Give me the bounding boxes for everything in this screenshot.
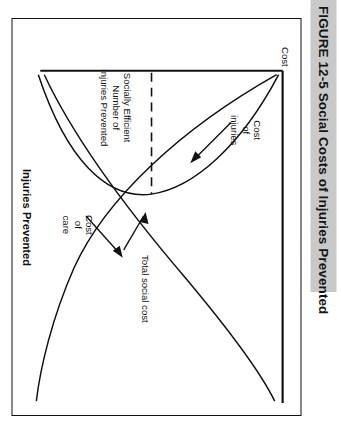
annotation-total-social-cost: Total social cost xyxy=(139,255,150,323)
annotation-socially-efficient-line1: Socially Efficient xyxy=(121,69,132,146)
x-axis-label: Injuries Prevented xyxy=(19,169,32,266)
annotation-cost-of-injuries: Cost of injuries xyxy=(228,115,262,145)
figure-frame: Cost Injuries Prevented Cost of injuries… xyxy=(11,18,301,416)
x-axis-label-text: Injuries Prevented xyxy=(20,169,32,266)
annotation-cost-of-care-line2: of xyxy=(71,215,82,235)
figure-title-band: FIGURE 12-5 Social Costs of Injuries Pre… xyxy=(310,0,336,292)
arrow-cost-of-injuries-head xyxy=(190,151,201,163)
annotation-cost-of-care-line3: care xyxy=(60,215,71,235)
social-cost-chart xyxy=(12,19,300,415)
annotation-cost-of-injuries-line1: Cost xyxy=(251,115,262,145)
annotation-cost-of-care-line1: Cost xyxy=(83,215,94,235)
annotation-cost-of-injuries-line2: of xyxy=(239,115,250,145)
annotation-socially-efficient-line3: Injuries Prevented xyxy=(98,69,109,146)
y-axis-label: Cost xyxy=(279,47,290,67)
figure-stage: FIGURE 12-5 Social Costs of Injuries Pre… xyxy=(0,0,341,436)
figure-title: FIGURE 12-5 Social Costs of Injuries Pre… xyxy=(316,6,331,314)
y-axis-label-text: Cost xyxy=(279,47,290,67)
annotation-cost-of-care: Cost of care xyxy=(60,215,94,235)
annotation-total-social-cost-line1: Total social cost xyxy=(139,255,150,323)
annotation-cost-of-injuries-line3: injuries xyxy=(228,115,239,145)
annotation-socially-efficient: Socially Efficient Number of Injuries Pr… xyxy=(98,69,132,146)
arrow-total-social-cost-shaft xyxy=(123,216,143,250)
annotation-socially-efficient-line2: Number of xyxy=(109,69,120,146)
